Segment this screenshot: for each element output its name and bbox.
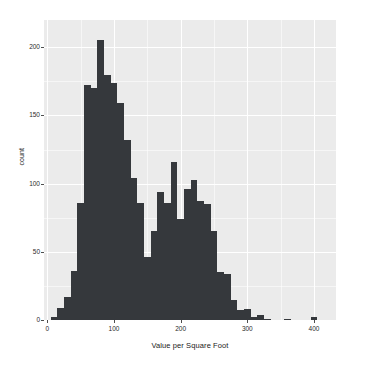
gridline-minor-vertical [281,20,282,320]
histogram-bar [151,231,158,320]
y-tick-label: 0 [18,316,40,323]
histogram-bar [244,309,251,320]
y-tick-mark [41,252,44,253]
histogram-bar [264,319,271,320]
histogram-bar [171,162,178,320]
y-tick-label: 150 [18,111,40,118]
y-tick-mark [41,47,44,48]
histogram-bar [284,319,291,320]
histogram-bar [64,297,71,320]
histogram-bar [111,83,118,320]
histogram-bar [231,300,238,320]
histogram-bar [57,308,64,320]
histogram-bar [257,315,264,320]
histogram-bar [137,203,144,320]
y-tick-mark [41,320,44,321]
y-axis-title: count [18,152,25,166]
histogram-plot: count 050100150200 0100200300400 Value p… [0,0,365,369]
histogram-bar [237,310,244,320]
x-axis-title: Value per Square Foot [44,341,336,350]
histogram-bar [197,201,204,320]
histogram-bar [177,219,184,320]
histogram-bar [131,178,138,320]
x-tick-label: 300 [233,325,261,332]
histogram-bar [51,317,58,320]
histogram-bar [157,192,164,320]
x-tick-label: 100 [100,325,128,332]
gridline-minor-horizontal [44,81,336,82]
y-tick-label: 100 [18,180,40,187]
histogram-bar [164,203,171,320]
x-tick-label: 0 [33,325,61,332]
histogram-bar [224,274,231,320]
plot-panel [44,20,336,320]
histogram-bar [71,271,78,320]
gridline-major-vertical [314,20,315,320]
histogram-bar [251,317,258,320]
y-tick-mark [41,115,44,116]
gridline-major-horizontal [44,47,336,48]
x-tick-mark [47,320,48,323]
histogram-bar [84,85,91,320]
histogram-bar [144,257,151,320]
gridline-major-vertical [247,20,248,320]
histogram-bar [191,180,198,320]
histogram-bar [184,189,191,320]
histogram-bar [117,103,124,320]
histogram-bar [91,88,98,320]
histogram-bar [124,140,131,320]
y-tick-label: 200 [18,43,40,50]
x-tick-mark [314,320,315,323]
histogram-bar [211,231,218,320]
x-tick-mark [247,320,248,323]
histogram-bar [204,204,211,320]
y-tick-mark [41,184,44,185]
histogram-bar [217,272,224,320]
y-tick-label: 50 [18,248,40,255]
gridline-major-vertical [47,20,48,320]
x-tick-mark [181,320,182,323]
histogram-bar [77,203,84,320]
x-tick-label: 400 [300,325,328,332]
x-tick-label: 200 [167,325,195,332]
histogram-bar [104,75,111,320]
histogram-bar [97,40,104,320]
x-tick-mark [114,320,115,323]
